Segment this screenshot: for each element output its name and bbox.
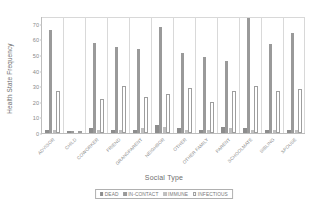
y-axis-tick-label: 20 (33, 100, 39, 106)
legend-item[interactable]: DEAD (100, 192, 118, 197)
bar (185, 130, 188, 133)
legend-item[interactable]: IMMUNE (163, 192, 188, 197)
legend-label: IN-CONTACT (128, 192, 158, 197)
bar (177, 128, 180, 133)
legend-label: INFECTIOUS (198, 192, 228, 197)
bar (111, 130, 114, 133)
bar (273, 130, 276, 133)
x-axis-tick-label: SPOUSE (283, 135, 305, 173)
bar (89, 128, 92, 133)
bar (291, 33, 294, 133)
y-axis-title: Health State Frequency (2, 22, 16, 134)
bar (166, 94, 169, 133)
chart-legend: DEADIN-CONTACTIMMUNEINFECTIOUS (95, 189, 233, 199)
bar-groups (42, 17, 305, 133)
x-axis-tick-label: COWORKER (85, 135, 107, 173)
bar (53, 130, 56, 133)
bar (269, 44, 272, 133)
legend-swatch-icon (163, 192, 166, 195)
bar (276, 91, 279, 133)
bar-group (107, 17, 129, 133)
legend-label: IMMUNE (168, 192, 188, 197)
bar (229, 128, 232, 133)
bar (221, 127, 224, 133)
bar (122, 86, 125, 133)
bar (163, 127, 166, 133)
x-axis-tick-label: SCHOOLMATE (239, 135, 261, 173)
bar (119, 130, 122, 133)
y-axis-tick-label: 0 (36, 131, 39, 137)
legend-item[interactable]: IN-CONTACT (124, 192, 159, 197)
bar (45, 130, 48, 133)
bar-group (261, 17, 283, 133)
chart-container: Health State Frequency 010203040506070 A… (0, 0, 328, 212)
y-axis-title-text: Health State Frequency (6, 43, 13, 113)
bar (247, 18, 250, 133)
bar (71, 131, 74, 133)
plot-area: 010203040506070 (41, 17, 305, 134)
bar (78, 131, 81, 133)
bar-group (217, 17, 239, 133)
bar (199, 130, 202, 133)
bar-group (129, 17, 151, 133)
x-axis-tick-label-text: OTHER (172, 137, 187, 152)
bar-group (151, 17, 173, 133)
bar-group (195, 17, 217, 133)
bar (115, 47, 118, 133)
x-axis-tick-label-text: SIBLING (259, 137, 276, 154)
bar-group (239, 17, 261, 133)
bar (93, 43, 96, 133)
x-axis-tick-label-text: PARENT (215, 137, 232, 154)
bar (251, 130, 254, 133)
legend-item[interactable]: INFECTIOUS (193, 192, 228, 197)
x-axis-tick-label-text: SPOUSE (280, 137, 298, 155)
x-axis-tick-label: ADVISOR (41, 135, 63, 173)
x-axis-tick-label-text: CHILD (64, 137, 78, 151)
y-axis-tick-label: 10 (33, 115, 39, 121)
x-axis-tick-labels: ADVISORCHILDCOWORKERFRIENDGRANDPARENTNEI… (41, 135, 305, 173)
bar (188, 88, 191, 133)
x-axis-tick-label: NEIGHBOR (151, 135, 173, 173)
x-axis-tick-label: SIBLING (261, 135, 283, 173)
bar (210, 102, 213, 133)
bar-group (42, 17, 63, 133)
x-axis-tick-label: OTHER FAMILY (195, 135, 217, 173)
bar (207, 130, 210, 133)
legend-swatch-icon (193, 192, 196, 195)
x-axis-title: Social Type (0, 174, 328, 181)
y-axis-tick-label: 60 (33, 37, 39, 43)
bar-group (283, 17, 305, 133)
bar (137, 49, 140, 133)
bar (133, 130, 136, 133)
bar-group (63, 17, 85, 133)
bar (232, 91, 235, 133)
bar (287, 130, 290, 133)
bar (141, 128, 144, 133)
bar (243, 128, 246, 133)
x-axis-tick-label-text: FRIEND (105, 137, 121, 153)
bar (265, 130, 268, 133)
y-axis-tick-label: 50 (33, 53, 39, 59)
bar (144, 97, 147, 133)
bar (203, 57, 206, 133)
legend-swatch-icon (124, 192, 127, 195)
bar (155, 125, 158, 133)
bar (181, 53, 184, 133)
x-axis-tick-label-text: ADVISOR (37, 137, 56, 156)
bar (67, 131, 70, 133)
bar (100, 99, 103, 133)
y-axis-tick-label: 70 (33, 22, 39, 28)
bar (295, 130, 298, 133)
bar (254, 86, 257, 133)
bar (97, 130, 100, 133)
bar-group (173, 17, 195, 133)
bar (49, 30, 52, 133)
bar (298, 89, 301, 133)
bar-group (85, 17, 107, 133)
bar (225, 61, 228, 133)
bar (159, 27, 162, 133)
y-axis-tick-label: 40 (33, 69, 39, 75)
legend-swatch-icon (100, 192, 103, 195)
bar (56, 91, 59, 133)
y-axis-tick-label: 30 (33, 84, 39, 90)
